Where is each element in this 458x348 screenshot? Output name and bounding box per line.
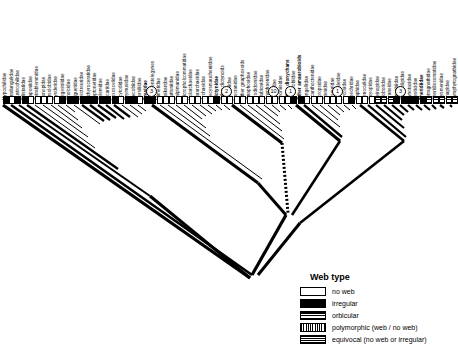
legend-label: polymorphic (web / no web) (332, 323, 418, 332)
legend-swatch-equivocal (300, 335, 326, 344)
legend-swatch-polymorphic (300, 323, 326, 332)
legend-swatch-no-web (300, 287, 326, 296)
legend: Web type no webirregularorbicularpolymor… (300, 272, 456, 347)
taxon-label: Tetrablemmidae (34, 66, 39, 100)
legend-title: Web type (310, 272, 456, 282)
legend-label: irregular (332, 299, 358, 308)
node-number: 10 (268, 86, 279, 97)
legend-item: no web (300, 287, 456, 296)
taxon-label-row: HypochilidaeGradungulidaeAustrochilidaeF… (0, 0, 457, 100)
legend-label: equivocal (no web or irregular) (332, 335, 427, 344)
taxon-label: Acanthoctenidae (310, 64, 315, 100)
node-number: 3 (395, 86, 406, 97)
node-number: 2 (221, 86, 232, 97)
taxon-label: Theridiosomatidae (432, 61, 437, 101)
legend-item: equivocal (no web or irregular) (300, 335, 456, 344)
taxon-label: Symphytognathidae (452, 58, 457, 100)
node-number: 3 (146, 86, 157, 97)
legend-item: orbicular (300, 311, 456, 320)
legend-swatch-irregular (300, 299, 326, 308)
legend-label: orbicular (332, 311, 359, 320)
taxon-label: Other gnaphosoids (240, 59, 245, 100)
taxon-label: Micropholcommatidae (182, 53, 187, 100)
taxon-label: Ochyroceratidae (86, 65, 91, 100)
cladogram-tree (0, 103, 457, 283)
legend-item: irregular (300, 299, 456, 308)
node-number: 1 (285, 86, 296, 97)
tree-branches (3, 105, 452, 278)
taxon-label: Other amaurobioids (297, 55, 302, 100)
legend-swatch-orbicular (300, 311, 326, 320)
legend-items: no webirregularorbicularpolymorphic (web… (300, 287, 456, 344)
legend-label: no web (332, 287, 355, 296)
taxon-label: Mecysmaucheniidae (208, 56, 213, 100)
legend-item: polymorphic (web / no web) (300, 323, 456, 332)
node-number: 1 (332, 86, 343, 97)
